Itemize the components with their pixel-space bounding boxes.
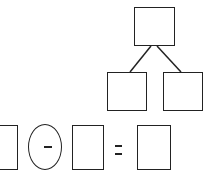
equation-operand-2-box[interactable] [72, 125, 104, 170]
math-worksheet-diagram [0, 0, 208, 173]
number-bond-whole-box[interactable] [134, 7, 175, 46]
number-bond-part-right-box[interactable] [163, 72, 203, 111]
equation-result-box[interactable] [137, 125, 171, 170]
equals-sign-top-bar [115, 145, 122, 147]
number-bond-part-left-box[interactable] [107, 72, 147, 111]
minus-sign-icon [44, 146, 52, 148]
connector-right [157, 46, 181, 72]
equals-sign-bottom-bar [115, 153, 122, 155]
equation-operand-1-box[interactable] [0, 125, 18, 170]
connector-left [130, 46, 151, 72]
